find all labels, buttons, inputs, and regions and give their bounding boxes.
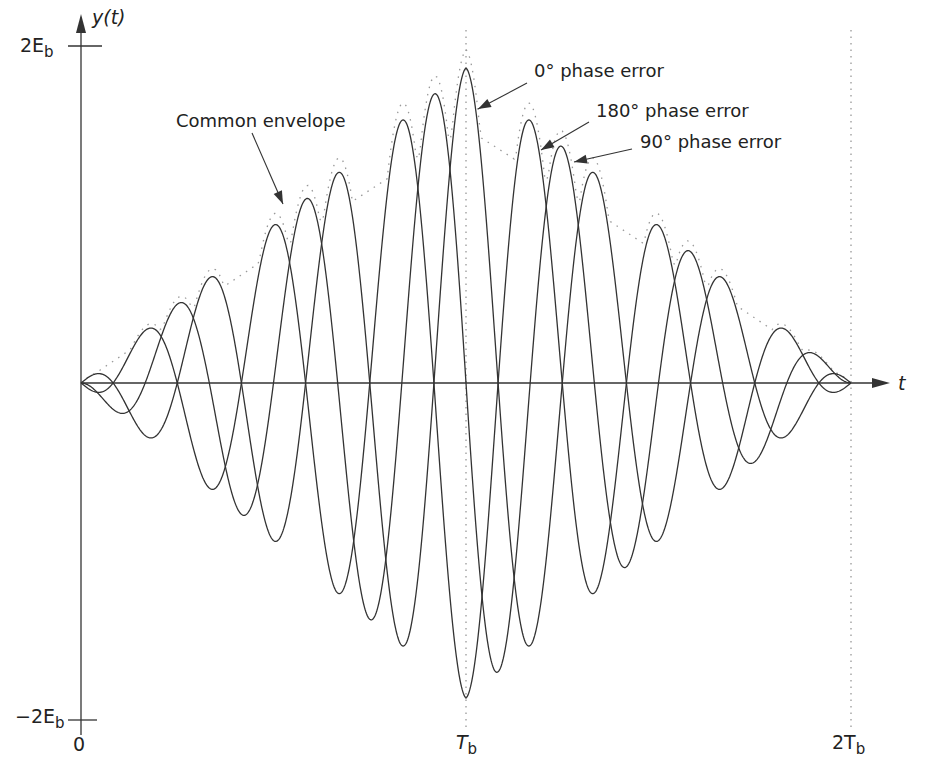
y-tick-bottom-text: −2E xyxy=(15,705,55,727)
x-tick-2Tb: 2Tb xyxy=(832,733,865,752)
annotation-0-phase-error: 0° phase error xyxy=(534,62,664,80)
x-tick-Tb: Tb xyxy=(456,733,477,752)
y-axis-arrow-icon xyxy=(76,14,86,33)
y-axis-label-text: y(t) xyxy=(92,6,126,28)
x-axis-arrow-icon xyxy=(872,378,890,388)
y-tick-bottom-sub: b xyxy=(55,714,65,732)
x-tick-Tb-text: T xyxy=(456,731,468,753)
annotation-90-phase-error: 90° phase error xyxy=(640,133,781,151)
y-tick-top-text: 2E xyxy=(20,34,44,56)
arrow-0-phase-head-icon xyxy=(478,99,492,109)
arrow-common-envelope-head-icon xyxy=(274,190,283,204)
x-tick-2Tb-sub: b xyxy=(856,740,866,758)
arrow-90-phase-head-icon xyxy=(574,155,588,164)
x-tick-zero: 0 xyxy=(73,735,85,754)
y-tick-bottom: −2Eb xyxy=(15,707,65,726)
x-tick-Tb-sub: b xyxy=(468,740,478,758)
x-tick-2Tb-text: 2T xyxy=(832,731,856,753)
annotation-common-envelope: Common envelope xyxy=(176,112,346,130)
y-tick-top: 2Eb xyxy=(20,36,54,55)
y-tick-top-sub: b xyxy=(44,43,54,61)
x-axis-label: t xyxy=(898,374,905,393)
annotation-arrows xyxy=(252,83,632,204)
chart-plot-area xyxy=(0,0,931,762)
y-axis-label: y(t) xyxy=(92,8,126,27)
annotation-180-phase-error: 180° phase error xyxy=(596,102,749,120)
